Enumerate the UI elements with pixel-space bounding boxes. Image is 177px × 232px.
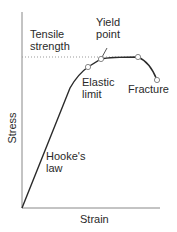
yield-point-marker <box>98 56 103 61</box>
fracture-marker <box>154 77 159 82</box>
tensile-strength-marker <box>135 54 140 59</box>
tensile-strength-label: Tensile strength <box>30 28 70 52</box>
y-axis-label: Stress <box>6 112 18 143</box>
tensile-label-line2: strength <box>30 40 70 52</box>
hookes-law-label: Hooke's law <box>46 150 85 174</box>
yield-label-line1: Yield <box>96 16 120 28</box>
tensile-label-line1: Tensile <box>30 28 70 40</box>
x-axis-label: Strain <box>80 213 109 225</box>
elastic-label-line2: limit <box>82 88 114 100</box>
hooke-label-line2: law <box>46 162 85 174</box>
elastic-limit-marker <box>85 64 90 69</box>
hooke-label-line1: Hooke's <box>46 150 85 162</box>
stress-strain-plot <box>0 0 177 232</box>
yield-point-label: Yield point <box>96 16 120 40</box>
fracture-label: Fracture <box>128 83 169 95</box>
yield-label-line2: point <box>96 28 120 40</box>
elastic-limit-label: Elastic limit <box>82 76 114 100</box>
elastic-label-line1: Elastic <box>82 76 114 88</box>
